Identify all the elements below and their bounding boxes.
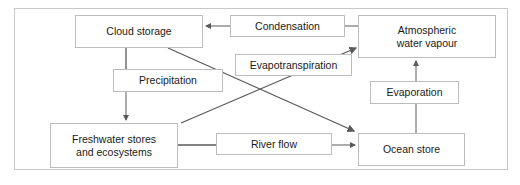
process-condensation: Condensation [230, 15, 345, 37]
store-cloud-storage: Cloud storage [75, 15, 203, 48]
process-label: River flow [251, 138, 297, 151]
store-label-line2: and ecosystems [76, 146, 152, 159]
process-precipitation: Precipitation [113, 69, 223, 92]
process-evapotranspiration: Evapotranspiration [235, 54, 352, 76]
store-label: Ocean store [383, 143, 440, 156]
store-ocean: Ocean store [358, 133, 465, 166]
store-freshwater: Freshwater stores and ecosystems [50, 123, 178, 168]
process-evaporation: Evaporation [370, 81, 459, 104]
store-label-line1: Atmospheric [398, 24, 456, 37]
store-atmospheric-water-vapour: Atmospheric water vapour [358, 15, 496, 58]
process-label: Condensation [255, 20, 320, 33]
process-label: Evapotranspiration [250, 59, 338, 72]
store-label-line1: Freshwater stores [72, 133, 156, 146]
store-label: Cloud storage [106, 25, 171, 38]
store-label-line2: water vapour [397, 37, 458, 50]
process-river-flow: River flow [216, 133, 332, 155]
process-label: Evaporation [386, 86, 442, 99]
process-label: Precipitation [139, 74, 197, 87]
